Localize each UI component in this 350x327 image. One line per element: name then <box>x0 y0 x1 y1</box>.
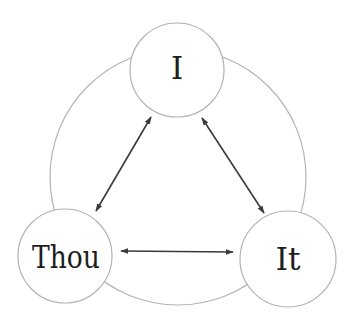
node-i-label: I <box>171 50 183 86</box>
i-thou-it-diagram: I Thou It <box>0 0 350 327</box>
edge-i-thou <box>96 117 151 211</box>
node-i: I <box>130 23 224 117</box>
node-thou: Thou <box>18 209 112 303</box>
node-it-label: It <box>276 241 301 277</box>
edge-i-it <box>202 118 264 213</box>
node-it: It <box>240 211 336 307</box>
node-thou-label: Thou <box>32 239 100 275</box>
edge-thou-it <box>121 251 233 252</box>
